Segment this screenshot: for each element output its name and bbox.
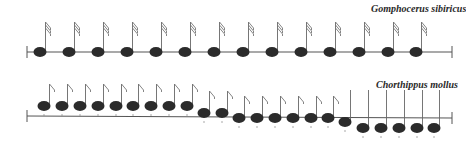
note-head bbox=[121, 47, 134, 57]
note-head bbox=[339, 117, 352, 127]
note-dot bbox=[416, 136, 417, 137]
note-head bbox=[145, 101, 158, 111]
note-head bbox=[237, 47, 250, 57]
note-flag bbox=[104, 84, 109, 92]
note-flag bbox=[278, 28, 283, 36]
note-dot bbox=[310, 126, 311, 127]
note-head bbox=[305, 113, 318, 123]
note-dot bbox=[79, 114, 80, 115]
note-head bbox=[208, 47, 221, 57]
note-flag bbox=[139, 84, 144, 92]
note-flag bbox=[50, 84, 55, 92]
note-head bbox=[295, 47, 308, 57]
note-dot bbox=[274, 126, 275, 127]
note-flag bbox=[263, 96, 268, 104]
note-dot bbox=[61, 114, 62, 115]
note-flag bbox=[336, 28, 341, 36]
note-head bbox=[353, 47, 366, 57]
note-dot bbox=[132, 114, 133, 115]
note-flag bbox=[307, 28, 312, 36]
note-dot bbox=[380, 136, 381, 137]
note-flag bbox=[175, 84, 180, 92]
note-head bbox=[179, 47, 192, 57]
note-flag bbox=[220, 28, 225, 36]
note-head bbox=[357, 123, 370, 133]
note-flag bbox=[104, 28, 109, 36]
note-flag bbox=[334, 96, 339, 104]
note-head bbox=[181, 101, 194, 111]
note-head bbox=[324, 47, 337, 57]
note-flag bbox=[394, 28, 399, 36]
note-head bbox=[375, 123, 388, 133]
note-dot bbox=[362, 136, 363, 137]
note-head bbox=[74, 101, 87, 111]
note-flag bbox=[46, 28, 51, 36]
note-flag bbox=[422, 28, 427, 36]
note-flag bbox=[245, 96, 250, 104]
note-dot bbox=[203, 121, 204, 122]
note-flag bbox=[75, 28, 80, 36]
note-flag bbox=[365, 28, 370, 36]
note-head bbox=[410, 47, 423, 57]
note-flag bbox=[162, 28, 167, 36]
note-head bbox=[163, 101, 176, 111]
note-dot bbox=[344, 130, 345, 131]
note-flag bbox=[68, 84, 73, 92]
song-notation-diagram bbox=[0, 0, 466, 142]
note-flag bbox=[281, 96, 286, 104]
note-dot bbox=[292, 126, 293, 127]
note-head bbox=[150, 47, 163, 57]
note-head bbox=[428, 123, 441, 133]
note-head bbox=[56, 101, 69, 111]
note-dot bbox=[168, 114, 169, 115]
note-dot bbox=[238, 126, 239, 127]
note-flag bbox=[228, 91, 233, 99]
note-dot bbox=[221, 121, 222, 122]
note-flag bbox=[133, 28, 138, 36]
note-head bbox=[251, 113, 264, 123]
note-head bbox=[266, 47, 279, 57]
note-head bbox=[38, 101, 51, 111]
note-flag bbox=[86, 84, 91, 92]
note-head bbox=[198, 108, 211, 118]
note-head bbox=[110, 101, 123, 111]
note-dot bbox=[115, 114, 116, 115]
species-label-chorthippus: Chorthippus mollus bbox=[376, 79, 458, 90]
note-dot bbox=[43, 114, 44, 115]
note-head bbox=[382, 47, 395, 57]
note-flag bbox=[299, 96, 304, 104]
note-flag bbox=[191, 28, 196, 36]
note-head bbox=[269, 113, 282, 123]
note-flag bbox=[193, 84, 198, 92]
note-flag bbox=[157, 84, 162, 92]
note-head bbox=[322, 113, 335, 123]
note-head bbox=[34, 47, 47, 57]
note-flag bbox=[317, 96, 322, 104]
note-flag bbox=[122, 84, 127, 92]
note-flag bbox=[210, 91, 215, 99]
note-head bbox=[127, 101, 140, 111]
note-head bbox=[63, 47, 76, 57]
note-head bbox=[411, 123, 424, 133]
note-dot bbox=[186, 114, 187, 115]
note-head bbox=[287, 113, 300, 123]
note-flag bbox=[249, 28, 254, 36]
note-head bbox=[393, 123, 406, 133]
note-dot bbox=[327, 126, 328, 127]
note-dot bbox=[256, 126, 257, 127]
species-label-gomphocerus: Gomphocerus sibiricus bbox=[371, 3, 466, 14]
note-head bbox=[216, 108, 229, 118]
note-head bbox=[92, 101, 105, 111]
note-head bbox=[92, 47, 105, 57]
note-head bbox=[233, 113, 246, 123]
note-dot bbox=[398, 136, 399, 137]
note-dot bbox=[97, 114, 98, 115]
note-dot bbox=[150, 114, 151, 115]
note-dot bbox=[433, 136, 434, 137]
